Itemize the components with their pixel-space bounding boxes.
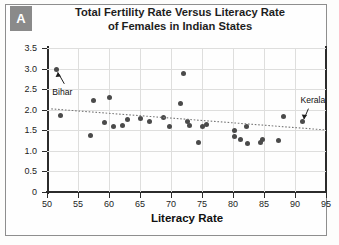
gridline-horizontal (47, 89, 326, 90)
gridline-vertical (78, 48, 79, 192)
x-axis-tick-label: 80 (223, 199, 243, 209)
panel-letter-badge: A (10, 6, 32, 31)
plot-area (47, 48, 326, 192)
x-axis-tick-label: 65 (130, 199, 150, 209)
y-axis-tick-label: 2.0 (24, 105, 37, 115)
x-axis-tick-label: 70 (161, 199, 181, 209)
y-axis-tick-label: 0.5 (24, 166, 37, 176)
gridline-horizontal (47, 171, 326, 172)
data-point (102, 120, 107, 125)
data-point (258, 140, 263, 145)
y-axis-tick-label: 2.5 (24, 84, 37, 94)
data-point (281, 114, 286, 119)
x-axis-tick (78, 193, 79, 198)
x-axis-tick-label: 90 (285, 199, 305, 209)
y-axis-tick-label: 3.5 (24, 43, 37, 53)
x-axis-tick-label: 95 (316, 199, 336, 209)
data-point (120, 123, 125, 128)
x-axis-tick (264, 193, 265, 198)
y-axis-tick-label: 3.0 (24, 64, 37, 74)
data-point (178, 101, 183, 106)
data-point (54, 67, 59, 72)
gridline-horizontal (47, 48, 326, 49)
x-axis-tick (233, 193, 234, 198)
gridline-vertical (171, 48, 172, 192)
x-axis-tick (47, 193, 48, 198)
data-point-annotation-label: Kerala (300, 95, 325, 105)
data-point-annotation-label: Bihar (52, 87, 72, 97)
data-point (88, 133, 93, 138)
x-axis-title: Literacy Rate (47, 212, 327, 224)
x-axis-tick (140, 193, 141, 198)
y-axis-tick-label: 1.5 (24, 125, 37, 135)
x-axis-tick (326, 193, 327, 198)
gridline-vertical (295, 48, 296, 192)
y-axis-tick (42, 110, 47, 111)
gridline-horizontal (47, 130, 326, 131)
data-point (187, 123, 192, 128)
y-axis-tick (42, 130, 47, 131)
x-axis-tick (109, 193, 110, 198)
data-point (138, 116, 143, 121)
data-point (276, 138, 281, 143)
x-axis-tick-label: 55 (68, 199, 88, 209)
y-axis-tick (42, 48, 47, 49)
y-axis-tick-label: 1.0 (24, 146, 37, 156)
x-axis-tick-label: 75 (192, 199, 212, 209)
gridline-horizontal (47, 151, 326, 152)
gridline-vertical (233, 48, 234, 192)
data-point (232, 128, 237, 133)
data-point (245, 141, 250, 146)
data-point (58, 113, 63, 118)
chart-title: Total Fertility Rate Versus Literacy Rat… (40, 6, 320, 33)
data-point (232, 134, 237, 139)
data-point (91, 98, 96, 103)
data-point (204, 122, 209, 127)
y-axis-tick (42, 171, 47, 172)
data-point (238, 137, 243, 142)
gridline-horizontal (47, 69, 326, 70)
x-axis-tick-label: 60 (99, 199, 119, 209)
data-point (181, 71, 186, 76)
data-point (244, 124, 249, 129)
y-axis-tick (42, 151, 47, 152)
figure-container: A Total Fertility Rate Versus Literacy R… (0, 0, 339, 245)
gridline-vertical (264, 48, 265, 192)
data-point (300, 119, 305, 124)
gridline-vertical (202, 48, 203, 192)
chart-title-line-2: of Females in Indian States (40, 20, 320, 34)
y-axis-tick (42, 89, 47, 90)
data-point (107, 95, 112, 100)
data-point (147, 119, 152, 124)
x-axis-tick-label: 50 (37, 199, 57, 209)
chart-title-line-1: Total Fertility Rate Versus Literacy Rat… (40, 6, 320, 20)
gridline-vertical (109, 48, 110, 192)
data-point (111, 124, 116, 129)
x-axis-tick (295, 193, 296, 198)
gridline-horizontal (47, 110, 326, 111)
x-axis-tick (202, 193, 203, 198)
x-axis-tick-label: 85 (254, 199, 274, 209)
data-point (161, 115, 166, 120)
data-point (196, 140, 201, 145)
data-point (125, 117, 130, 122)
y-axis-tick-label: 0 (32, 187, 37, 197)
y-axis-tick (42, 69, 47, 70)
x-axis-tick (171, 193, 172, 198)
